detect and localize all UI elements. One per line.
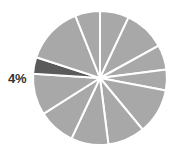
- pie-slice-label-4-percent: 4%: [8, 72, 26, 85]
- pie-slice-group: [33, 11, 167, 145]
- pie-chart-figure: 4%: [0, 0, 172, 156]
